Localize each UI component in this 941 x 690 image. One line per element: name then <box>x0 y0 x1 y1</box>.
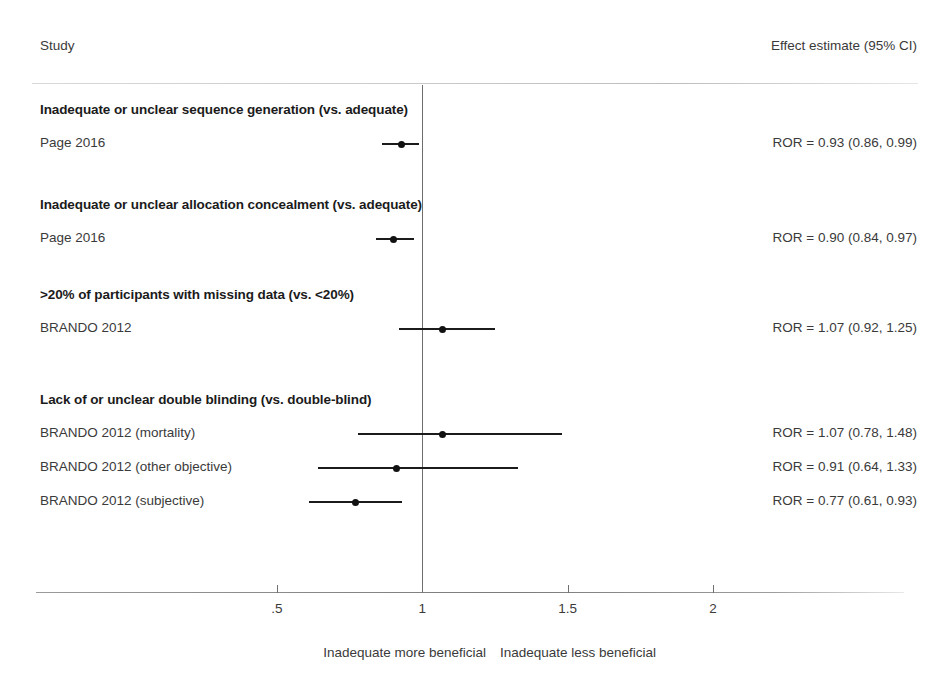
x-axis-tick <box>713 585 714 593</box>
effect-estimate-value: ROR = 1.07 (0.78, 1.48) <box>773 425 917 440</box>
study-label: BRANDO 2012 (other objective) <box>40 459 232 474</box>
point-estimate-marker <box>352 499 359 506</box>
reference-line <box>422 85 423 592</box>
study-label: BRANDO 2012 (subjective) <box>40 493 204 508</box>
x-axis-tick-label: .5 <box>271 601 282 616</box>
header-separator-rule <box>32 83 918 84</box>
footer-label-more-beneficial: Inadequate more beneficial <box>323 645 486 660</box>
confidence-interval-line <box>399 328 495 330</box>
effect-estimate-value: ROR = 0.91 (0.64, 1.33) <box>773 459 917 474</box>
x-axis-line <box>36 592 904 593</box>
study-label: BRANDO 2012 (mortality) <box>40 425 195 440</box>
column-header-effect: Effect estimate (95% CI) <box>771 38 917 53</box>
point-estimate-marker <box>398 141 405 148</box>
x-axis-tick <box>568 585 569 593</box>
group-title: Inadequate or unclear allocation conceal… <box>40 197 422 212</box>
confidence-interval-line <box>318 467 519 469</box>
x-axis-tick-label: 2 <box>709 601 717 616</box>
study-label: Page 2016 <box>40 230 105 245</box>
x-axis-tick-label: 1 <box>419 601 427 616</box>
x-axis-tick <box>277 585 278 593</box>
point-estimate-marker <box>439 326 446 333</box>
study-label: BRANDO 2012 <box>40 320 132 335</box>
point-estimate-marker <box>393 465 400 472</box>
confidence-interval-line <box>358 433 561 435</box>
forest-plot: Study Effect estimate (95% CI) Inadequat… <box>0 0 941 690</box>
group-title: >20% of participants with missing data (… <box>40 287 354 302</box>
group-title: Inadequate or unclear sequence generatio… <box>40 102 408 117</box>
effect-estimate-value: ROR = 0.77 (0.61, 0.93) <box>773 493 917 508</box>
group-title: Lack of or unclear double blinding (vs. … <box>40 392 371 407</box>
point-estimate-marker <box>439 431 446 438</box>
effect-estimate-value: ROR = 1.07 (0.92, 1.25) <box>773 320 917 335</box>
point-estimate-marker <box>390 236 397 243</box>
footer-label-less-beneficial: Inadequate less beneficial <box>500 645 656 660</box>
x-axis-tick-label: 1.5 <box>558 601 577 616</box>
effect-estimate-value: ROR = 0.93 (0.86, 0.99) <box>773 135 917 150</box>
study-label: Page 2016 <box>40 135 105 150</box>
effect-estimate-value: ROR = 0.90 (0.84, 0.97) <box>773 230 917 245</box>
column-header-study: Study <box>40 38 75 53</box>
x-axis-tick <box>422 585 423 593</box>
